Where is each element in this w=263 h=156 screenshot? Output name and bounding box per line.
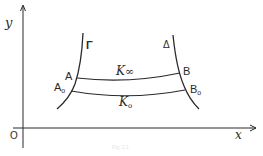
- k-infinity-label: K∞: [116, 65, 134, 77]
- origin-label: O: [10, 131, 18, 141]
- delta-label: Δ: [163, 40, 170, 50]
- point-b0-label: Bo: [190, 84, 201, 96]
- k-zero-main: K: [119, 95, 128, 109]
- k-infinity-main: K: [116, 64, 125, 78]
- k-zero-arc: [71, 90, 185, 96]
- point-a0-label: Ao: [54, 82, 65, 94]
- point-a-label: A: [65, 71, 72, 82]
- k-zero-sub: o: [128, 102, 132, 110]
- figure-caption: Fig. 2.1: [112, 144, 129, 150]
- diagram-canvas: y x O Γ Δ A Ao B Bo K∞ Ko Fig. 2.1: [0, 0, 263, 156]
- gamma-label: Γ: [86, 40, 93, 51]
- k-infinity-sub: ∞: [125, 65, 134, 78]
- x-axis-label: x: [235, 129, 242, 141]
- point-b0-sub: o: [197, 89, 201, 96]
- k-zero-label: Ko: [119, 96, 132, 110]
- diagram-lines: [0, 0, 263, 156]
- y-axis-label: y: [5, 16, 12, 29]
- point-b-label: B: [183, 66, 190, 77]
- point-a0-sub: o: [61, 87, 65, 94]
